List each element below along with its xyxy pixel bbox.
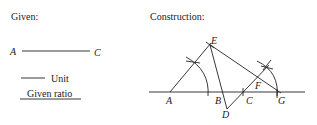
point-g-label: G [278,96,285,106]
point-d-label: D [222,110,229,120]
point-b-label: B [215,96,221,106]
line-ae [170,43,211,92]
construction-heading: Construction: [150,12,204,22]
point-e-label: E [211,36,217,46]
point-a-label: A [166,96,172,106]
point-f-label: F [255,81,261,91]
point-c-label: C [246,96,253,106]
